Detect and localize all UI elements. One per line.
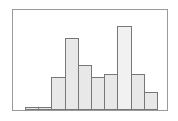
histogram-bar [51, 77, 66, 110]
chart-bars [0, 0, 178, 121]
histogram-bar [25, 107, 39, 110]
histogram-bar [117, 26, 132, 110]
histogram-bar [65, 38, 79, 110]
histogram-bar [144, 92, 158, 110]
histogram-bar [104, 74, 118, 110]
histogram-bar [91, 77, 105, 110]
histogram-bar [78, 65, 92, 110]
histogram-bar [131, 74, 145, 110]
histogram-bar [38, 107, 52, 110]
